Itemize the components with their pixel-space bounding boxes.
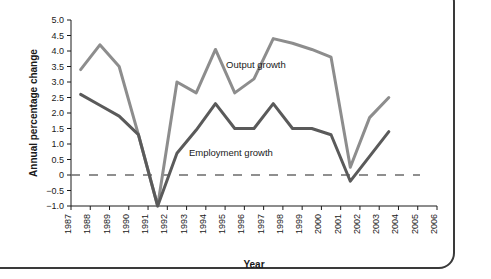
x-axis-tick-label: 2005 <box>410 214 420 234</box>
y-axis-tick-label: 5.0 <box>51 15 64 25</box>
x-axis-tick-label: 1997 <box>256 214 266 234</box>
x-axis-tick-label: 1998 <box>275 214 285 234</box>
series-label-output-growth: Output growth <box>226 59 286 70</box>
x-axis-tick-label: 2006 <box>429 214 439 234</box>
x-axis-tick-label: 1990 <box>121 214 131 234</box>
y-axis-tick-label: 2.0 <box>51 108 64 118</box>
x-axis-tick-label: 1988 <box>82 214 92 234</box>
figure-card: 5.04.54.03.53.02.52.01.51.00.50−0.5−1.01… <box>0 0 491 279</box>
x-axis-tick-label: 2002 <box>352 214 362 234</box>
y-axis-tick-label: 0 <box>59 170 64 180</box>
y-axis-tick-label: 3.0 <box>51 77 64 87</box>
x-axis-tick-label: 1999 <box>294 214 304 234</box>
x-axis-tick-label: 1992 <box>159 214 169 234</box>
y-axis-tick-label: 0.5 <box>51 155 64 165</box>
x-axis-tick-label: 1989 <box>102 214 112 234</box>
line-chart: 5.04.54.03.53.02.52.01.51.00.50−0.5−1.01… <box>0 0 491 279</box>
y-axis-tick-label: 4.0 <box>51 46 64 56</box>
x-axis-tick-label: 1996 <box>236 214 246 234</box>
x-axis-tick-label: 1994 <box>198 214 208 234</box>
x-axis-tick-label: 2000 <box>313 214 323 234</box>
y-axis-tick-label: −0.5 <box>46 186 64 196</box>
y-axis-tick-label: 4.5 <box>51 31 64 41</box>
x-axis-tick-label: 2001 <box>333 214 343 234</box>
x-axis-tick-label: 1991 <box>140 214 150 234</box>
x-axis-tick-label: 2004 <box>390 214 400 234</box>
y-axis-tick-label: −1.0 <box>46 201 64 211</box>
x-axis-tick-label: 1987 <box>63 214 73 234</box>
x-axis-title: Year <box>243 259 264 270</box>
y-axis-title: Annual percentage change <box>28 49 39 177</box>
x-axis-tick-label: 1993 <box>179 214 189 234</box>
y-axis-tick-label: 1.0 <box>51 139 64 149</box>
x-axis-tick-label: 1995 <box>217 214 227 234</box>
series-label-employment-growth: Employment growth <box>189 147 273 158</box>
y-axis-tick-label: 3.5 <box>51 62 64 72</box>
x-axis-tick-label: 2003 <box>371 214 381 234</box>
y-axis-tick-label: 2.5 <box>51 93 64 103</box>
y-axis-tick-label: 1.5 <box>51 124 64 134</box>
